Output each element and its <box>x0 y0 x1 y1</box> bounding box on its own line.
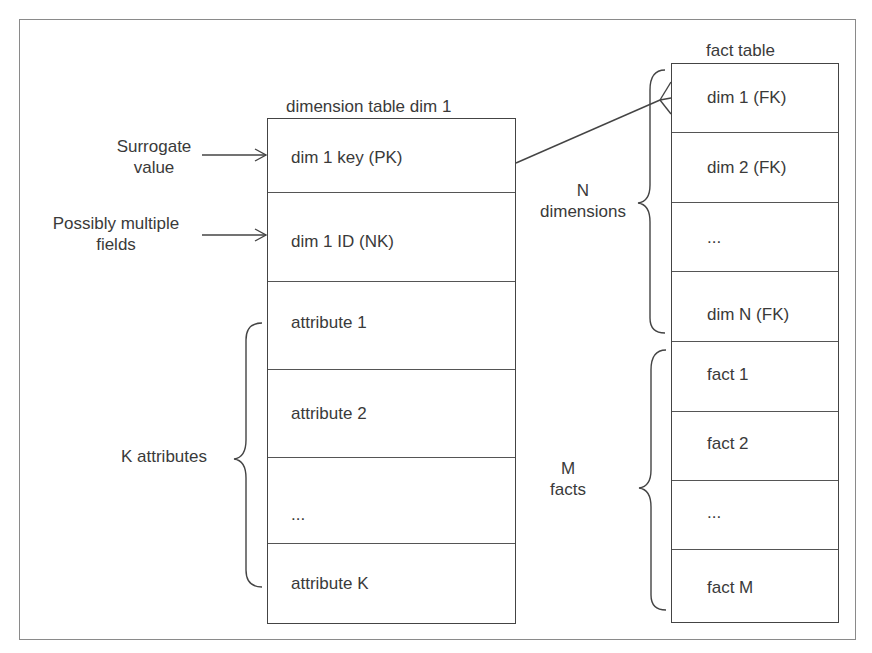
arrow-multiple-fields-icon <box>202 229 266 241</box>
n-dimensions-brace-icon <box>638 70 665 333</box>
relationship-crows-foot-icon <box>516 82 671 163</box>
m-facts-brace-icon <box>639 350 666 610</box>
connectors <box>0 0 872 653</box>
arrow-surrogate-icon <box>202 149 266 161</box>
k-attributes-brace-icon <box>234 323 262 587</box>
